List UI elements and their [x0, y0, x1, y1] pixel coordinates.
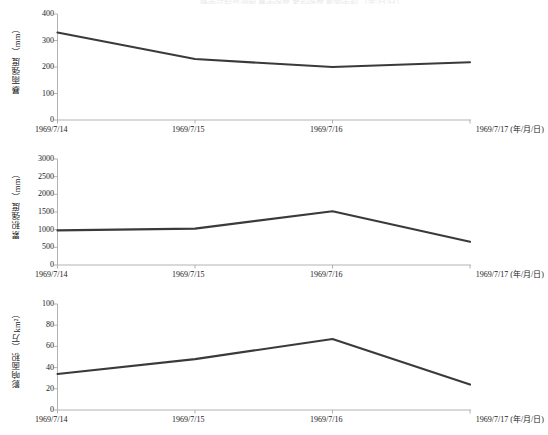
y-tick-label: 300 — [20, 37, 54, 45]
x-tick-label: 1969/7/15 — [172, 126, 204, 134]
y-tick-label: 40 — [20, 364, 54, 372]
x-tick-label: 1969/7/17 (年/月/日) — [476, 416, 544, 424]
figure-root: 降雨过程监测图 暴雨强度 累积强度 影响面积 （年/月/日） 暴雨强度（mm） … — [0, 0, 548, 435]
x-tick-label: 1969/7/16 — [310, 126, 342, 134]
y-tick-labels-0: 0100200300400 — [18, 0, 54, 145]
y-tick-label: 60 — [20, 342, 54, 350]
chart-panel-affected-area: 影响面积（万km²） 020406080100 1969/7/14 1969/7… — [0, 290, 548, 435]
y-tick-labels-1: 050010001500200025003000 — [18, 145, 54, 290]
x-tick-label: 1969/7/16 — [310, 416, 342, 424]
x-tick-label: 1969/7/16 — [310, 271, 342, 279]
x-tick-labels-2: 1969/7/14 1969/7/15 1969/7/16 1969/7/17 … — [0, 416, 548, 430]
y-tick-label: 20 — [20, 385, 54, 393]
y-tick-label: 2000 — [20, 190, 54, 198]
x-tick-labels-0: 1969/7/14 1969/7/15 1969/7/16 1969/7/17 … — [0, 126, 548, 140]
y-tick-label: 0 — [20, 261, 54, 269]
y-tick-label: 2500 — [20, 173, 54, 181]
x-tick-label: 1969/7/14 — [35, 126, 67, 134]
plot-area-2 — [0, 290, 548, 435]
data-series-line — [58, 211, 471, 241]
x-tick-label: 1969/7/14 — [35, 271, 67, 279]
y-tick-label: 1500 — [20, 208, 54, 216]
x-tick-label: 1969/7/15 — [172, 416, 204, 424]
y-tick-label: 80 — [20, 321, 54, 329]
y-tick-label: 0 — [20, 116, 54, 124]
y-tick-label: 100 — [20, 90, 54, 98]
y-tick-label: 0 — [20, 406, 54, 414]
x-tick-label: 1969/7/14 — [35, 416, 67, 424]
y-tick-label: 3000 — [20, 155, 54, 163]
y-tick-labels-2: 020406080100 — [18, 290, 54, 435]
plot-area-1 — [0, 145, 548, 290]
plot-area-0 — [0, 0, 548, 145]
chart-panel-rainfall-intensity: 暴雨强度（mm） 0100200300400 1969/7/14 1969/7/… — [0, 0, 548, 145]
y-tick-label: 1000 — [20, 226, 54, 234]
y-tick-label: 500 — [20, 243, 54, 251]
x-tick-label: 1969/7/17 (年/月/日) — [476, 271, 544, 279]
x-tick-labels-1: 1969/7/14 1969/7/15 1969/7/16 1969/7/17 … — [0, 271, 548, 285]
data-series-line — [58, 33, 471, 67]
data-series-line — [58, 339, 471, 385]
x-tick-label: 1969/7/15 — [172, 271, 204, 279]
y-tick-label: 100 — [20, 300, 54, 308]
x-tick-label: 1969/7/17 (年/月/日) — [476, 126, 544, 134]
y-tick-label: 200 — [20, 63, 54, 71]
y-tick-label: 400 — [20, 10, 54, 18]
chart-panel-cumulative-intensity: 累积强度（mm） 050010001500200025003000 1969/7… — [0, 145, 548, 290]
